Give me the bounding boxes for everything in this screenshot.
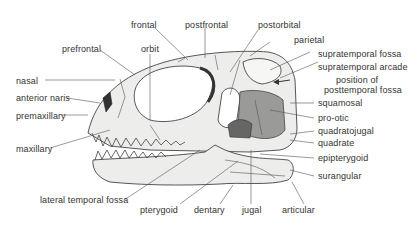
label-frontal: frontal [131, 20, 157, 30]
label-squamosal: squamosal [318, 98, 362, 108]
label-prefrontal: prefrontal [62, 44, 101, 54]
label-premaxillary: premaxillary [16, 111, 66, 121]
label-pterygoid: pterygoid [140, 205, 178, 215]
label-posttemporal-line2: posttemporal fossa [324, 85, 402, 95]
label-dentary: dentary [194, 205, 225, 215]
label-posttemporal-line1: position of [336, 75, 378, 85]
label-pro-otic: pro-otic [318, 113, 349, 123]
label-nasal: nasal [16, 76, 38, 86]
label-orbit: orbit [141, 44, 159, 54]
label-surangular: surangular [318, 171, 362, 181]
label-supratemporal-fossa: supratemporal fossa [318, 49, 401, 59]
label-jugal: jugal [242, 205, 262, 215]
label-supratemporal-arcade: supratemporal arcade [318, 62, 408, 72]
label-quadrate: quadrate [318, 138, 354, 148]
label-maxillary: maxillary [16, 144, 52, 154]
label-postfrontal: postfrontal [185, 20, 228, 30]
label-parietal: parietal [294, 35, 324, 45]
label-articular: articular [282, 205, 315, 215]
label-quadratojugal: quadratojugal [318, 126, 374, 136]
label-anterior-naris: anterior naris [16, 93, 70, 103]
label-postorbital: postorbital [258, 20, 301, 30]
label-epipterygoid: epipterygoid [318, 153, 368, 163]
label-lateral-temporal-fossa: lateral temporal fossa [40, 195, 128, 205]
